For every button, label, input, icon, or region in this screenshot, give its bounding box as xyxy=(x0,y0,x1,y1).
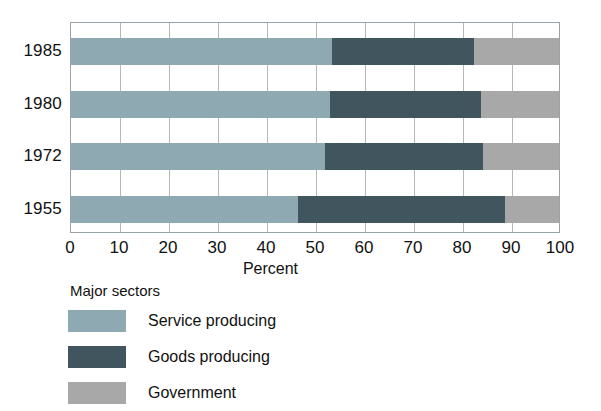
x-axis-title-text: Percent xyxy=(243,260,298,278)
x-axis-tick-label: 0 xyxy=(65,238,74,258)
x-axis-tick-label: 90 xyxy=(502,238,521,258)
bar-segment xyxy=(298,196,505,223)
legend-swatch xyxy=(68,346,126,368)
bar-segment xyxy=(483,143,559,170)
stacked-bar-chart: 1985198019721955 0102030405060708090100 … xyxy=(0,0,601,411)
x-axis-tick-label: 10 xyxy=(110,238,129,258)
y-axis-label: 1985 xyxy=(0,41,62,61)
legend-items: Service producingGoods producingGovernme… xyxy=(68,306,276,407)
legend-label: Government xyxy=(148,384,236,402)
y-axis-label: 1972 xyxy=(0,146,62,166)
bar-segment xyxy=(332,38,474,65)
legend-title: Major sectors xyxy=(68,282,276,299)
bar-row xyxy=(71,143,559,170)
bar-row xyxy=(71,91,559,118)
bar-segment xyxy=(71,196,298,223)
x-axis-tick-label: 60 xyxy=(355,238,374,258)
bar-segment xyxy=(71,91,330,118)
x-axis-title: Percent xyxy=(0,260,601,278)
bar-segment xyxy=(330,91,481,118)
bar-segment xyxy=(474,38,559,65)
x-axis-tick-label: 50 xyxy=(306,238,325,258)
x-axis-tick-label: 20 xyxy=(159,238,178,258)
bar-row xyxy=(71,38,559,65)
bar-segment xyxy=(71,143,325,170)
x-axis-tick-label: 100 xyxy=(546,238,574,258)
bar-segment xyxy=(505,196,559,223)
x-axis-tick-label: 30 xyxy=(208,238,227,258)
x-axis-tick-label: 70 xyxy=(404,238,423,258)
legend-label: Goods producing xyxy=(148,348,270,366)
legend-swatch xyxy=(68,310,126,332)
bar-row xyxy=(71,196,559,223)
legend-item[interactable]: Goods producing xyxy=(68,342,276,371)
bar-segment xyxy=(325,143,484,170)
legend-item[interactable]: Government xyxy=(68,378,276,407)
bar-segment xyxy=(481,91,559,118)
y-axis-label: 1955 xyxy=(0,199,62,219)
y-axis-label: 1980 xyxy=(0,94,62,114)
x-axis-tick-label: 40 xyxy=(257,238,276,258)
legend-swatch xyxy=(68,382,126,404)
legend-label: Service producing xyxy=(148,312,276,330)
x-axis-tick-label: 80 xyxy=(453,238,472,258)
plot-area xyxy=(70,22,560,233)
legend-item[interactable]: Service producing xyxy=(68,306,276,335)
legend: Major sectors Service producingGoods pro… xyxy=(68,282,276,411)
bar-segment xyxy=(71,38,332,65)
